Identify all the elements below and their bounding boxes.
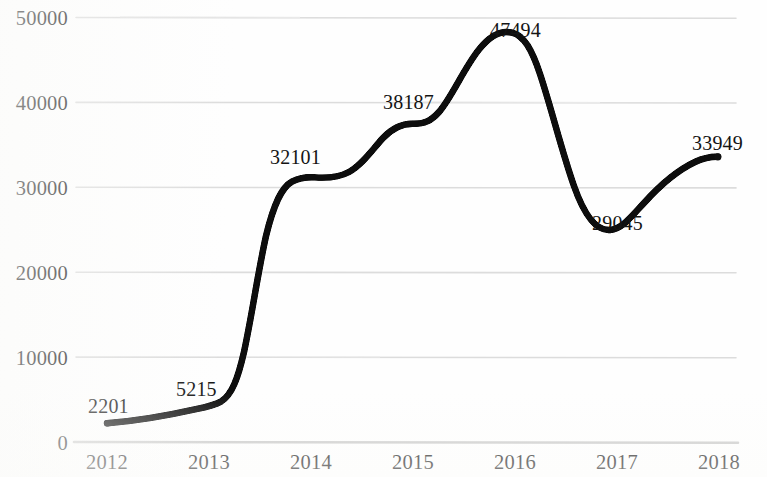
line-chart: 50000 40000 30000 20000 10000 0 2012 201… <box>0 0 767 477</box>
data-point-2012 <box>104 420 111 427</box>
data-label-2017: 29045 <box>592 213 643 233</box>
data-point-2018 <box>714 153 721 160</box>
data-label-2018: 33949 <box>692 133 743 153</box>
data-label-2012: 2201 <box>88 396 129 416</box>
data-label-2015: 38187 <box>383 92 434 112</box>
data-label-2013: 5215 <box>176 379 217 399</box>
data-label-2016: 47494 <box>490 20 541 40</box>
data-label-2014: 32101 <box>270 147 321 167</box>
